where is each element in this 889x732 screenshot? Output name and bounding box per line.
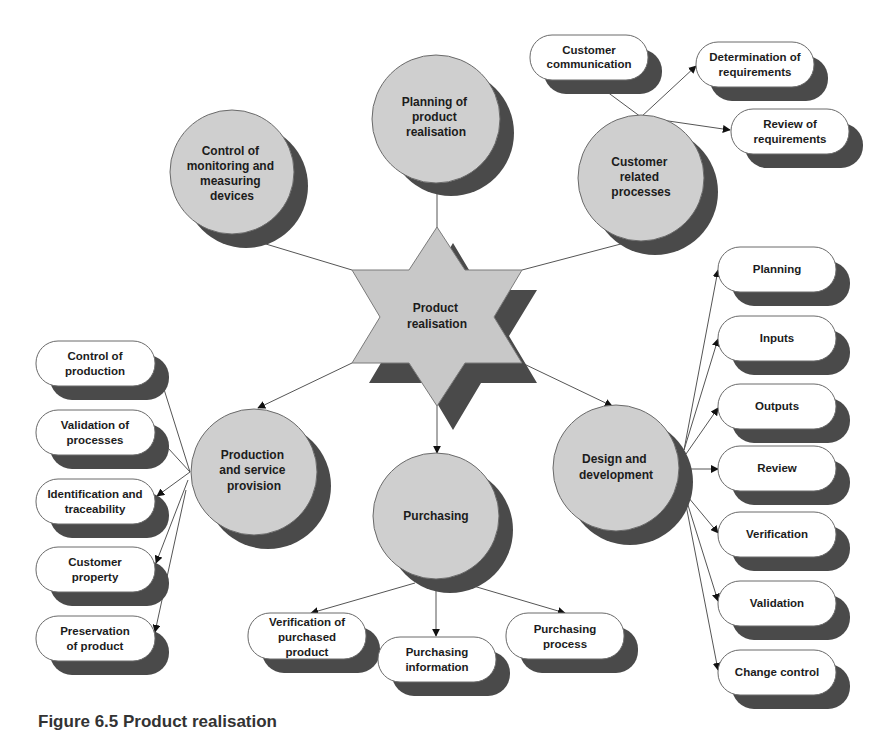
svg-text:Validation: Validation xyxy=(750,597,804,609)
box-purchasing-information: Purchasinginformation xyxy=(378,637,510,696)
svg-text:Change control: Change control xyxy=(735,666,819,678)
edge-to-design xyxy=(522,363,612,406)
svg-text:Review: Review xyxy=(757,462,797,474)
edge-design-change-control xyxy=(686,505,718,670)
box-customer-property: Customerproperty xyxy=(36,547,169,606)
process-production: Production and service provision xyxy=(191,409,331,549)
center-node: Product realisation xyxy=(352,227,537,430)
process-design: Design and development xyxy=(553,405,693,545)
edge-design-verification xyxy=(688,497,718,533)
box-design-validation: Validation xyxy=(718,581,850,640)
process-planning: Planning of product realisation xyxy=(372,55,514,196)
edge-purchasing-process xyxy=(470,585,565,613)
edge-design-validation xyxy=(687,502,718,601)
process-customer-label: Customer related processes xyxy=(611,155,671,199)
process-purchasing-label: Purchasing xyxy=(403,509,468,523)
box-purchasing-process: Purchasingprocess xyxy=(506,613,638,673)
box-determination-of-requirements: Determination ofrequirements xyxy=(696,42,828,101)
process-purchasing: Purchasing xyxy=(373,453,513,593)
process-production-label: Production and service provision xyxy=(219,448,288,493)
figure-caption: Figure 6.5 Product realisation xyxy=(38,712,277,732)
svg-text:Planning: Planning xyxy=(753,263,802,275)
box-design-inputs: Inputs xyxy=(718,316,850,375)
svg-text:Inputs: Inputs xyxy=(760,332,795,344)
box-verification-of-purchased-product: Verification ofpurchasedproduct xyxy=(248,613,380,673)
box-validation-of-processes: Validation ofprocesses xyxy=(36,410,169,469)
svg-text:Verification: Verification xyxy=(746,528,808,540)
box-design-change-control: Change control xyxy=(718,650,850,709)
box-review-of-requirements: Review ofrequirements xyxy=(731,109,863,168)
edge-to-production xyxy=(258,363,352,408)
box-control-of-production: Control ofproduction xyxy=(36,341,169,400)
box-design-planning: Planning xyxy=(718,247,850,306)
process-customer-related: Customer related processes xyxy=(578,115,718,255)
box-design-review: Review xyxy=(718,446,850,505)
box-customer-communication: Customercommunication xyxy=(530,35,662,94)
edge-design-inputs xyxy=(684,339,718,450)
edge-purchasing-verification xyxy=(311,583,415,613)
edge-design-planning xyxy=(684,270,718,450)
product-realisation-diagram: Product realisation Planning of product … xyxy=(0,0,889,732)
box-design-verification: Verification xyxy=(718,512,850,571)
process-monitoring: Control of monitoring and measuring devi… xyxy=(170,110,308,248)
box-design-outputs: Outputs xyxy=(718,384,850,443)
box-preservation-of-product: Preservationof product xyxy=(36,616,169,675)
edge-to-customer xyxy=(522,240,636,270)
box-identification-and-traceability: Identification andtraceability xyxy=(36,479,169,538)
svg-text:Outputs: Outputs xyxy=(755,400,799,412)
